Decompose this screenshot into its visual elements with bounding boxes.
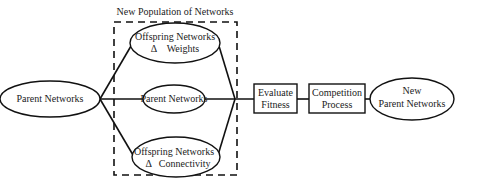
evaluate-line2: Fitness <box>261 99 289 110</box>
offspring-weights-line2: Δ Weights <box>151 43 200 54</box>
evolution-diagram: New Population of Networks Parent Networ… <box>0 0 480 188</box>
population-title: New Population of Networks <box>117 6 234 17</box>
parent-copy-label: Parent Networks <box>141 93 208 104</box>
offspring-connectivity-line2: Δ Connectivity <box>145 158 210 169</box>
competition-line1: Competition <box>312 87 362 98</box>
offspring-connectivity-line1: Offspring Networks <box>134 146 214 157</box>
new-parent-line2: Parent Networks <box>379 98 446 109</box>
offspring-connectivity-node <box>132 137 220 177</box>
new-parent-line1: New <box>403 85 423 96</box>
competition-line2: Process <box>322 99 353 110</box>
offspring-weights-line1: Offspring Networks <box>135 31 215 42</box>
parent-networks-label: Parent Networks <box>17 93 84 104</box>
evaluate-line1: Evaluate <box>258 87 294 98</box>
